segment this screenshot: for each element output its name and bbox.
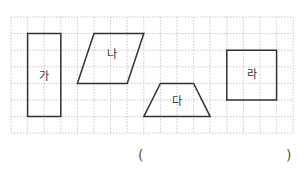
answer-open-paren: (	[138, 147, 143, 163]
shape-label-da: 다	[172, 95, 182, 108]
shape-label-ga: 가	[39, 70, 49, 83]
shape-label-na: 나	[107, 48, 117, 61]
answer-close-paren: )	[286, 147, 291, 163]
shapes-group: 가나다라	[28, 34, 277, 117]
shape-label-ra: 라	[247, 68, 257, 81]
shapes-figure: 가나다라	[0, 0, 304, 175]
